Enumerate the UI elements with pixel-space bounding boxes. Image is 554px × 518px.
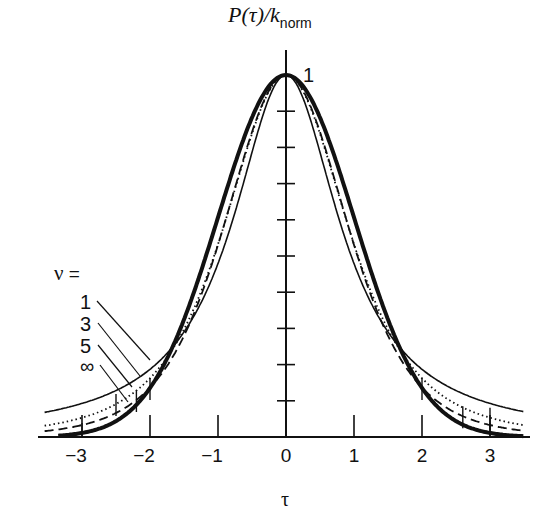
peak-value-label: 1 — [303, 64, 314, 87]
legend-entry-nu-3: 3 — [80, 314, 91, 334]
x-tick-label: 2 — [417, 445, 428, 467]
x-tick-label: 0 — [281, 445, 292, 467]
x-tick-label: −2 — [133, 445, 155, 467]
x-axis-label: τ — [281, 488, 289, 511]
x-tick-label: −3 — [65, 445, 87, 467]
leader-nu-3 — [98, 323, 140, 376]
legend-title-nu: ν — [54, 261, 64, 285]
legend-title: ν = — [54, 261, 80, 286]
axes — [38, 50, 530, 437]
x-tick-label: 3 — [485, 445, 496, 467]
curve-nu-3 — [45, 75, 524, 426]
legend-entry-nu-inf: ∞ — [80, 356, 94, 376]
x-tick-label: 1 — [349, 445, 360, 467]
leader-nu-5 — [98, 345, 132, 387]
x-tick-label: −1 — [201, 445, 223, 467]
legend-entry-nu-1: 1 — [80, 292, 91, 312]
y-axis-label-main: P(τ)/k — [228, 2, 280, 27]
curve-nu-5 — [45, 75, 524, 431]
plot-area — [0, 0, 554, 518]
legend-title-eq: = — [64, 263, 80, 284]
leader-nu-1 — [97, 301, 150, 360]
curve-nu-1 — [45, 75, 524, 412]
y-axis-label-subscript: norm — [280, 15, 312, 31]
legend-entry-nu-5: 5 — [80, 336, 91, 356]
y-axis-label: P(τ)/knorm — [228, 2, 312, 28]
